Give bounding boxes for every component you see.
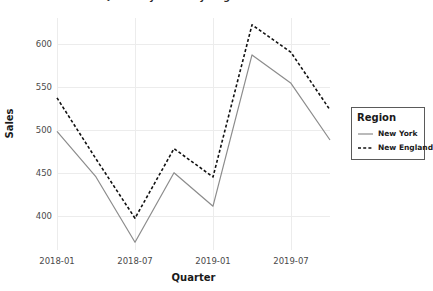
x-axis-tick-labels: 2018-012018-072019-012019-07 <box>57 256 330 270</box>
legend-line-icon <box>357 128 374 139</box>
legend-item[interactable]: New York <box>357 127 420 140</box>
chart-title: Quarterly Sales by Region <box>0 0 350 2</box>
series-line-new-york <box>57 55 330 242</box>
legend-item-label: New York <box>378 129 418 138</box>
y-tick-label: 400 <box>6 211 52 221</box>
x-tick-label: 2019-01 <box>183 256 243 266</box>
y-tick-label: 600 <box>6 39 52 49</box>
y-axis-title: Sales <box>4 94 15 154</box>
y-tick-label: 550 <box>6 82 52 92</box>
x-tick-label: 2019-07 <box>261 256 321 266</box>
legend-item-label: New England <box>378 143 433 152</box>
y-tick-label: 450 <box>6 168 52 178</box>
legend: Region New YorkNew England <box>351 107 425 160</box>
legend-title: Region <box>357 112 420 123</box>
legend-items: New YorkNew England <box>357 127 420 154</box>
plot-series-layer <box>57 18 330 250</box>
x-tick-label: 2018-07 <box>105 256 165 266</box>
legend-line-icon <box>357 142 374 153</box>
x-axis-title: Quarter <box>57 272 330 283</box>
plot-panel <box>57 18 330 250</box>
legend-item[interactable]: New England <box>357 141 420 154</box>
x-tick-label: 2018-01 <box>27 256 87 266</box>
